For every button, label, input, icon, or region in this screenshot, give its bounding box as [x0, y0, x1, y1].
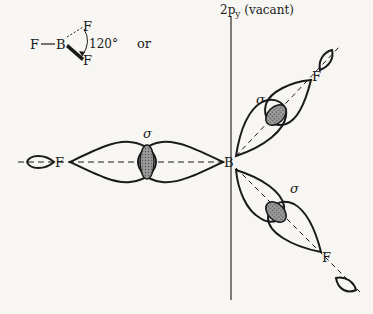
inset-f-left: F	[30, 37, 39, 52]
lower-bond: σ F	[236, 168, 360, 292]
sigma-label-lower: σ	[290, 181, 300, 196]
inset-f-top: F	[83, 19, 92, 34]
f-label-lower: F	[322, 250, 331, 265]
f-label-left: F	[55, 155, 64, 170]
inset-f-bottom: F	[83, 53, 92, 68]
axis-label: 2py (vacant)	[220, 3, 294, 19]
sigma-label-upper: σ	[256, 92, 266, 107]
bf3-orbital-diagram: F B F F 120° or 2py (vacant) F σ B	[0, 0, 373, 314]
or-label: or	[137, 36, 152, 51]
horizontal-bond: F σ B	[18, 126, 234, 182]
f-label-upper: F	[312, 69, 321, 84]
sigma-label-horizontal: σ	[143, 126, 153, 141]
inset-dashed-bond	[67, 27, 83, 37]
upper-bond-axis	[236, 46, 340, 156]
inset-structure: F B F F 120° or	[30, 19, 152, 68]
overlap-region	[140, 145, 154, 179]
inset-angle-label: 120°	[89, 37, 118, 51]
upper-bond: σ F	[236, 46, 340, 156]
f-lower-back-lobe	[336, 278, 356, 292]
f-upper-back-lobe	[320, 50, 333, 70]
boron-label: B	[224, 155, 234, 170]
inset-boron: B	[56, 37, 66, 52]
